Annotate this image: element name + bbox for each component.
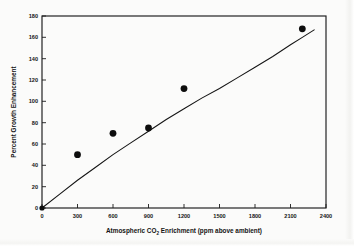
- y-tick-label: 140: [29, 56, 38, 62]
- x-tick-label: 2100: [284, 213, 296, 219]
- y-tick-label: 60: [32, 141, 38, 147]
- growth-enhancement-scatter-chart: 0 20 40 60 80 100 120 140 160 180 0 300 …: [0, 0, 354, 246]
- scan-page-edge-right: [345, 0, 354, 246]
- data-point-marker: [181, 85, 188, 92]
- x-tick-label: 1800: [249, 213, 261, 219]
- data-point-markers: [39, 25, 305, 210]
- y-axis-tick-labels: 0 20 40 60 80 100 120 140 160 180: [29, 13, 38, 211]
- y-tick-label: 40: [32, 162, 38, 168]
- y-tick-label: 180: [29, 13, 38, 19]
- chart-page: 0 20 40 60 80 100 120 140 160 180 0 300 …: [0, 0, 354, 246]
- x-axis-title: Atmospheric CO2 Enrichment (ppm above am…: [106, 227, 262, 236]
- data-point-marker: [145, 125, 152, 132]
- y-tick-label: 20: [32, 184, 38, 190]
- y-axis-tickmarks: [42, 16, 46, 208]
- x-axis-title-before: Atmospheric CO: [106, 227, 156, 235]
- data-point-marker: [299, 25, 306, 32]
- x-axis-tickmarks: [42, 204, 326, 208]
- y-tick-label: 80: [32, 120, 38, 126]
- y-tick-label: 120: [29, 77, 38, 83]
- x-tick-label: 600: [108, 213, 117, 219]
- fitted-curve: [42, 30, 314, 208]
- data-point-marker: [110, 130, 117, 137]
- y-tick-label: 100: [29, 98, 38, 104]
- x-tick-label: 2400: [320, 213, 332, 219]
- x-tick-label: 1500: [213, 213, 225, 219]
- x-tick-label: 0: [40, 213, 43, 219]
- x-axis-tick-labels: 0 300 600 900 1200 1500 1800 2100 2400: [40, 213, 332, 219]
- x-axis-title-after: Enrichment (ppm above ambient): [159, 227, 262, 235]
- x-tick-label: 1200: [178, 213, 190, 219]
- data-point-marker: [74, 151, 81, 158]
- y-axis-title: Percent Growth Enhancement: [10, 65, 17, 157]
- x-tick-label: 900: [144, 213, 153, 219]
- y-tick-label: 160: [29, 34, 38, 40]
- data-point-marker: [39, 205, 44, 210]
- x-tick-label: 300: [73, 213, 82, 219]
- y-tick-label: 0: [35, 205, 38, 211]
- scan-page-edge-bottom: [0, 239, 354, 246]
- plot-frame: [42, 16, 326, 208]
